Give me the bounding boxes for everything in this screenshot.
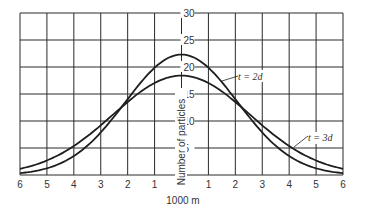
x-axis-label: 1000 m <box>166 195 199 206</box>
diffusion-chart: 51015202530 6543210123456 Number of part… <box>0 0 366 211</box>
y-tick-label: 25 <box>184 35 196 46</box>
x-tick-label: 2 <box>233 179 239 190</box>
x-tick-label: 1 <box>152 179 158 190</box>
y-axis-label: Number of particles <box>176 99 187 186</box>
x-tick-label: 3 <box>98 179 104 190</box>
x-tick-label: 2 <box>125 179 131 190</box>
x-tick-label: 5 <box>44 179 50 190</box>
x-tick-label: 4 <box>286 179 292 190</box>
annotation-t-3d: t = 3d <box>308 132 334 143</box>
x-tick-label: 5 <box>313 179 319 190</box>
x-tick-label: 6 <box>340 179 346 190</box>
y-tick-label: 30 <box>184 8 196 19</box>
x-tick-label: 1 <box>206 179 212 190</box>
x-tick-label: 3 <box>259 179 265 190</box>
x-tick-label: 6 <box>17 179 23 190</box>
y-tick-label: 20 <box>184 62 196 73</box>
annot-pointer-3d <box>294 136 308 147</box>
annotation-t-2d: t = 2d <box>238 71 264 82</box>
x-tick-label: 4 <box>71 179 77 190</box>
